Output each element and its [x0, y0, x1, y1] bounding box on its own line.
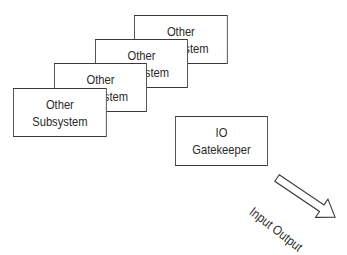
io-gatekeeper-line2: Gatekeeper [192, 141, 250, 158]
subsystem-box-1-line1: Other [46, 96, 74, 113]
subsystem-box-1: Other Subsystem [13, 88, 107, 137]
subsystem-box-4-line1: Other [167, 23, 195, 40]
io-gatekeeper-line1: IO [216, 124, 228, 141]
subsystem-box-3-line1: Other [127, 47, 155, 64]
io-gatekeeper-box: IO Gatekeeper [175, 116, 268, 166]
subsystem-box-2-line1: Other [86, 71, 114, 88]
subsystem-box-1-line2: Subsystem [32, 113, 87, 130]
